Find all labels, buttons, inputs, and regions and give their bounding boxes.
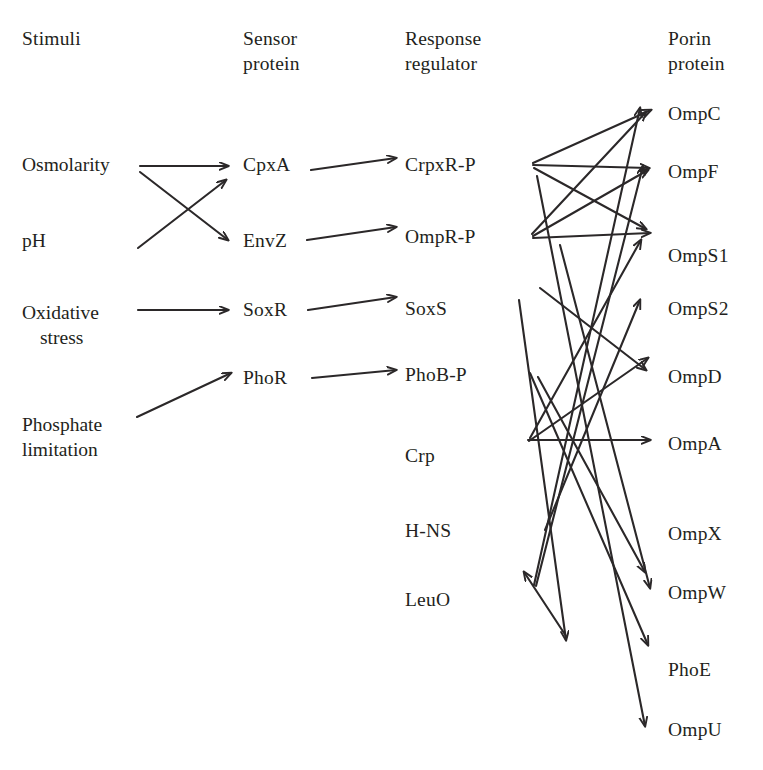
sensor-protein-soxr: SoxR	[243, 297, 287, 322]
response-regulator-leuo-label: LeuO	[405, 589, 450, 610]
column-header-regulator-line1: Response	[405, 28, 481, 49]
edge-cpxa-crpxr	[311, 158, 396, 170]
response-regulator-leuo: LeuO	[405, 587, 450, 612]
stimulus-ph-label: pH	[22, 230, 46, 251]
edge-ompr-omps1	[533, 233, 650, 238]
column-header-porin-line1: Porin	[668, 28, 711, 49]
edge-phor-phob	[312, 370, 396, 378]
edge-ompr-ompc	[532, 112, 646, 234]
porin-protein-ompw: OmpW	[668, 580, 726, 605]
response-regulator-crpxr-p: CrpxR-P	[405, 152, 476, 177]
stimulus-phosphate-line1: Phosphate	[22, 414, 102, 435]
porin-protein-ompc-label: OmpC	[668, 103, 721, 124]
response-regulator-crpxr-p-label: CrpxR-P	[405, 154, 476, 175]
stimulus-osmolarity-label: Osmolarity	[22, 154, 110, 175]
sensor-protein-phor: PhoR	[243, 365, 287, 390]
porin-protein-omps1: OmpS1	[668, 243, 729, 268]
column-header-stimuli: Stimuli	[22, 26, 81, 51]
porin-regulation-diagram: Stimuli Sensor protein Response regulato…	[0, 0, 763, 770]
edge-ompr-ompf	[533, 170, 648, 236]
edge-osmolarity-envz	[140, 172, 228, 240]
stimulus-oxidative-stress: Oxidative stress	[22, 300, 99, 350]
response-regulator-phob-p: PhoB-P	[405, 362, 467, 387]
porin-protein-ompa: OmpA	[668, 431, 722, 456]
sensor-protein-cpxa: CpxA	[243, 152, 290, 177]
response-regulator-phob-p-label: PhoB-P	[405, 364, 467, 385]
edge-crpxr-ompf	[533, 165, 649, 168]
porin-protein-ompd: OmpD	[668, 364, 722, 389]
edge-leuo-ompf	[536, 166, 643, 586]
porin-protein-ompu: OmpU	[668, 717, 722, 742]
response-regulator-soxs: SoxS	[405, 296, 447, 321]
edge-soxr-soxs	[308, 297, 396, 310]
column-header-sensor-line2: protein	[243, 51, 300, 76]
sensor-protein-cpxa-label: CpxA	[243, 154, 290, 175]
sensor-protein-envz: EnvZ	[243, 228, 287, 253]
edge-phob-ompw	[538, 377, 645, 572]
column-header-porin-line2: protein	[668, 51, 725, 76]
edge-leuo-up-left	[524, 572, 566, 636]
edge-soxs-omps2	[540, 288, 646, 370]
edge-ph-cpxa	[138, 180, 226, 248]
porin-protein-phoe-label: PhoE	[668, 659, 711, 680]
porin-protein-ompu-label: OmpU	[668, 719, 722, 740]
stimulus-oxidative-line1: Oxidative	[22, 302, 99, 323]
porin-protein-ompw-label: OmpW	[668, 582, 726, 603]
porin-protein-ompx: OmpX	[668, 521, 722, 546]
porin-protein-ompx-label: OmpX	[668, 523, 722, 544]
stimulus-osmolarity: Osmolarity	[22, 152, 110, 177]
sensor-protein-phor-label: PhoR	[243, 367, 287, 388]
porin-protein-omps2: OmpS2	[668, 296, 729, 321]
porin-protein-ompa-label: OmpA	[668, 433, 722, 454]
edge-crp-ompd	[529, 358, 648, 441]
response-regulator-h-ns: H-NS	[405, 518, 451, 543]
stimulus-ph: pH	[22, 228, 46, 253]
response-regulator-soxs-label: SoxS	[405, 298, 447, 319]
porin-protein-omps2-label: OmpS2	[668, 298, 729, 319]
edge-ompr-ompw2	[560, 245, 650, 588]
response-regulator-crp-label: Crp	[405, 445, 435, 466]
edge-layer	[0, 0, 763, 770]
column-header-regulator-line2: regulator	[405, 51, 481, 76]
edges-group	[137, 108, 651, 726]
response-regulator-h-ns-label: H-NS	[405, 520, 451, 541]
stimulus-phosphate-line2: limitation	[22, 437, 102, 462]
porin-protein-ompf-label: OmpF	[668, 161, 719, 182]
porin-protein-omps1-label: OmpS1	[668, 245, 729, 266]
sensor-protein-envz-label: EnvZ	[243, 230, 287, 251]
porin-protein-ompc: OmpC	[668, 101, 721, 126]
porin-protein-ompd-label: OmpD	[668, 366, 722, 387]
response-regulator-ompr-p-label: OmpR-P	[405, 226, 476, 247]
edge-envz-ompr	[307, 227, 396, 240]
edge-phosphate-phor	[137, 373, 231, 417]
response-regulator-ompr-p: OmpR-P	[405, 224, 476, 249]
column-header-response-regulator: Response regulator	[405, 26, 481, 76]
porin-protein-phoe: PhoE	[668, 657, 711, 682]
column-header-porin-protein: Porin protein	[668, 26, 725, 76]
edge-crpxr-ompu	[537, 176, 645, 726]
stimulus-phosphate-limitation: Phosphate limitation	[22, 412, 102, 462]
column-header-sensor-protein: Sensor protein	[243, 26, 300, 76]
column-header-sensor-line1: Sensor	[243, 28, 297, 49]
sensor-protein-soxr-label: SoxR	[243, 299, 287, 320]
response-regulator-crp: Crp	[405, 443, 435, 468]
stimulus-oxidative-line2: stress	[22, 325, 99, 350]
porin-protein-ompf: OmpF	[668, 159, 719, 184]
column-header-stimuli-line1: Stimuli	[22, 28, 81, 49]
